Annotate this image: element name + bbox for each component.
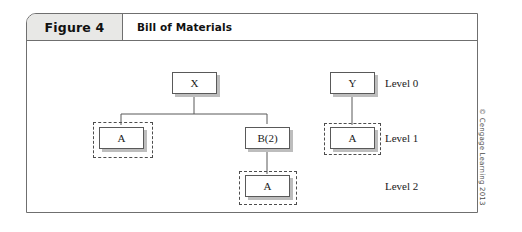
node-b2[interactable]: B(2) [245,127,290,149]
node-x-label: X [191,77,199,89]
node-y-label: Y [349,77,357,89]
node-a-under-b-label: A [264,180,272,192]
figure-number-label: Figure 4 [45,20,105,35]
figure-title-cell: Bill of Materials [123,14,477,40]
node-a-left[interactable]: A [99,127,144,149]
level-label-1: Level 1 [385,132,418,144]
level-label-2: Level 2 [385,180,418,192]
node-y[interactable]: Y [330,72,375,94]
figure-number-cell: Figure 4 [27,14,123,40]
node-b2-label: B(2) [257,132,277,144]
node-a-left-label: A [118,132,126,144]
node-a-right[interactable]: A [330,127,375,149]
figure-title-label: Bill of Materials [137,21,232,33]
diagram-canvas: X A B(2) A Y A Level 0 Level 1 Level 2 [27,41,477,213]
copyright-credit: © Cengage Learning 2013 [478,108,486,206]
level-label-0: Level 0 [385,77,418,89]
node-a-under-b[interactable]: A [245,175,290,197]
figure-frame: Figure 4 Bill of Materials X A [26,13,478,213]
node-x[interactable]: X [172,72,217,94]
figure-header: Figure 4 Bill of Materials [27,14,477,41]
node-a-right-label: A [349,132,357,144]
